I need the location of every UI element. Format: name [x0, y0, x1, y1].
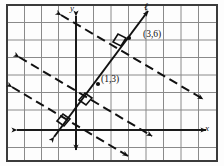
point-dot-3-6 — [127, 36, 131, 40]
point-label-1-3: (1,3) — [101, 75, 119, 85]
geometry-figure: y x ℓ (3,6) (1,3) — [0, 0, 224, 166]
x-axis-label: x — [205, 124, 209, 133]
line-l-label: ℓ — [144, 2, 148, 12]
point-label-3-6: (3,6) — [143, 30, 161, 40]
y-axis-label: y — [70, 4, 74, 13]
point-dot-1-3 — [96, 82, 100, 86]
